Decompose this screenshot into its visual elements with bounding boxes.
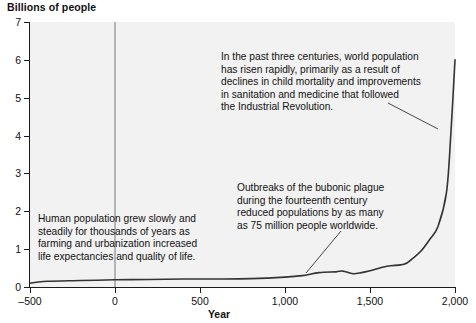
y-tick [24, 249, 29, 250]
annotation-modern-growth: In the past three centuries, world popul… [221, 51, 421, 114]
y-tick [24, 211, 29, 212]
x-tick-label: 1,000 [255, 295, 315, 307]
x-tick-label: 0 [85, 295, 145, 307]
y-tick [24, 22, 29, 23]
x-tick [285, 288, 286, 293]
x-axis-line [29, 287, 456, 288]
x-tick [455, 288, 456, 293]
x-axis-title-label: Year [208, 308, 230, 320]
x-tick-label: –500 [0, 295, 60, 307]
y-tick [24, 287, 29, 288]
y-axis-title: Billions of people [7, 1, 96, 13]
y-tick-label: 0 [1, 282, 21, 292]
x-axis-title: Year [0, 308, 476, 320]
y-tick [24, 60, 29, 61]
y-tick-label: 1 [1, 244, 21, 254]
x-tick [370, 288, 371, 293]
y-tick-label: 5 [1, 93, 21, 103]
x-tick-label: 500 [170, 295, 230, 307]
y-tick-label: 7 [1, 17, 21, 27]
y-tick-label: 3 [1, 168, 21, 178]
population-chart-figure: Billions of people 01234567 –50005001,00… [0, 0, 476, 323]
x-tick [30, 288, 31, 293]
x-tick [200, 288, 201, 293]
y-tick-label: 4 [1, 131, 21, 141]
x-tick [115, 288, 116, 293]
y-tick [24, 136, 29, 137]
x-tick-label: 1,500 [340, 295, 400, 307]
y-tick [24, 98, 29, 99]
y-tick [24, 173, 29, 174]
y-tick-label: 2 [1, 206, 21, 216]
x-tick-label: 2,000 [425, 295, 476, 307]
y-tick-label: 6 [1, 55, 21, 65]
annotation-ancient-growth: Human population grew slowly and steadil… [38, 213, 197, 263]
annotation-bubonic-plague: Outbreaks of the bubonic plague during t… [237, 182, 384, 232]
y-axis-line [29, 22, 30, 288]
